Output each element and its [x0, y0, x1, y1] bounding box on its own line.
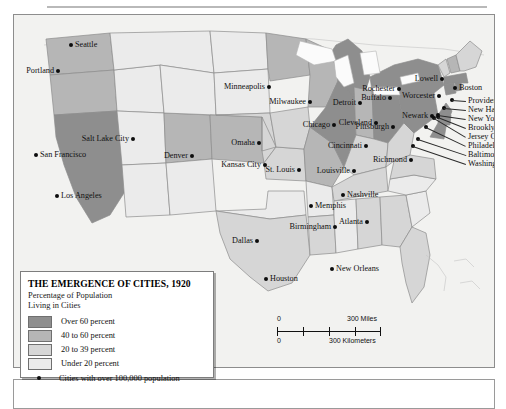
city-label: Seattle: [75, 41, 97, 49]
scale-km-zero: 0: [277, 337, 281, 344]
city-label: New Haven: [468, 106, 495, 114]
state-south-dakota: [214, 69, 270, 115]
legend-city-note: Cities with over 100,000 population: [28, 371, 213, 386]
city-dot: [365, 220, 369, 224]
state-new-mexico: [166, 159, 216, 215]
city-label: St. Louis: [265, 166, 295, 174]
city-label: Lowell: [415, 75, 438, 83]
state-idaho: [114, 65, 164, 113]
state-arizona: [122, 163, 170, 217]
city-dot: [364, 144, 368, 148]
city-label: Memphis: [315, 202, 346, 210]
state-north-dakota: [210, 31, 268, 73]
legend-entries: Over 60 percent40 to 60 percent20 to 39 …: [21, 311, 213, 386]
city-label: Cincinnati: [328, 142, 362, 150]
scale-bar-ticks: [277, 327, 381, 336]
city-dot: [333, 225, 337, 229]
scale-miles-label: 300 Miles: [347, 315, 377, 322]
city-label: Birmingham: [290, 223, 331, 231]
legend-entry-label: Under 20 percent: [61, 359, 119, 368]
legend-entry: Over 60 percent: [28, 315, 213, 329]
city-dot: [437, 94, 441, 98]
city-dot: [267, 85, 271, 89]
city-dot: [56, 69, 60, 73]
city-label: Pittsburgh: [355, 123, 389, 131]
city-dot: [69, 43, 73, 47]
city-label: Philadelphia: [468, 142, 495, 150]
city-label: Washington: [468, 160, 495, 168]
city-label: Worcester: [402, 92, 435, 100]
city-label: Richmond: [373, 156, 407, 164]
city-label: Brooklyn: [468, 124, 495, 132]
city-label: Houston: [270, 275, 298, 283]
city-dot-icon: [37, 376, 41, 380]
city-dot: [255, 239, 259, 243]
city-label: Buffalo: [361, 94, 386, 102]
city-dot: [297, 168, 301, 172]
legend-entry: 40 to 60 percent: [28, 329, 213, 343]
city-label: Jersey City: [468, 133, 495, 141]
city-dot: [341, 193, 345, 197]
city-label: Chicago: [303, 121, 330, 129]
city-dot: [330, 267, 334, 271]
city-label: Rochester: [362, 85, 395, 93]
city-label: Boston: [459, 84, 482, 92]
legend-swatch: [28, 358, 52, 370]
legend-city-note-label: Cities with over 100,000 population: [59, 374, 180, 383]
city-label: Salt Lake City: [82, 135, 129, 143]
legend-city-dot-wrap: [28, 376, 50, 380]
legend-title: THE EMERGENCE OF CITIES, 1920: [21, 272, 213, 289]
city-dot: [397, 87, 401, 91]
city-dot: [352, 169, 356, 173]
scale-bar: 0 300 Miles 0 300 Kilometers: [277, 315, 407, 348]
city-dot: [453, 86, 457, 90]
city-label: Portland: [26, 67, 54, 75]
city-dot: [131, 137, 135, 141]
city-label: Dallas: [232, 237, 253, 245]
legend-entry: Under 20 percent: [28, 357, 213, 371]
map-legend: THE EMERGENCE OF CITIES, 1920 Percentage…: [20, 271, 214, 378]
legend-entry: 20 to 39 percent: [28, 343, 213, 357]
state-oregon: [50, 70, 117, 115]
state-wyoming: [160, 65, 216, 115]
city-label: Atlanta: [339, 218, 363, 226]
legend-subtitle-line1: Percentage of Population: [28, 291, 213, 301]
city-dot: [309, 204, 313, 208]
city-label: Denver: [164, 152, 188, 160]
city-label: Nashville: [347, 191, 378, 199]
city-dot: [55, 194, 59, 198]
city-dot: [308, 100, 312, 104]
top-divider-rule: [47, 6, 487, 8]
city-label: Louisville: [317, 167, 350, 175]
city-label: Milwaukee: [269, 98, 306, 106]
city-label: Providence: [468, 97, 495, 105]
legend-subtitle: Percentage of Population Living in Citie…: [21, 289, 213, 311]
city-dot: [34, 153, 38, 157]
city-label: Baltimore: [468, 151, 495, 159]
city-label: Minneapolis: [224, 83, 265, 91]
city-label: New Orleans: [336, 265, 379, 273]
state-arkansas: [306, 181, 334, 217]
city-dot: [409, 158, 413, 162]
city-label: San Francisco: [40, 151, 86, 159]
city-label: Omaha: [231, 139, 255, 147]
scale-miles-zero: 0: [277, 315, 281, 322]
city-label: Kansas City: [221, 161, 261, 169]
city-dot: [332, 123, 336, 127]
legend-entry-label: 20 to 39 percent: [61, 345, 115, 354]
legend-swatch: [28, 344, 52, 356]
legend-entry-label: 40 to 60 percent: [61, 331, 115, 340]
city-dot: [190, 154, 194, 158]
city-dot: [257, 141, 261, 145]
scale-km-label: 300 Kilometers: [329, 337, 376, 344]
legend-swatch: [28, 316, 52, 328]
city-label: Detroit: [333, 99, 356, 107]
city-dot: [440, 77, 444, 81]
legend-entry-label: Over 60 percent: [61, 317, 115, 326]
legend-swatch: [28, 330, 52, 342]
city-dot: [388, 96, 392, 100]
city-label: Newark: [402, 112, 428, 120]
city-dot: [391, 125, 395, 129]
legend-subtitle-line2: Living in Cities: [28, 301, 213, 311]
city-label: New York: [468, 115, 495, 123]
